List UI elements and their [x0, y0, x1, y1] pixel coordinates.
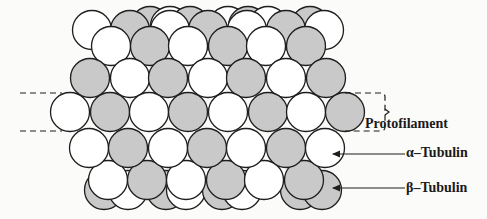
label-arrows — [333, 154, 405, 188]
alpha-tubulin-subunit — [306, 129, 345, 168]
beta-tubulin-subunit — [71, 59, 110, 98]
alpha-tubulin-subunit — [227, 129, 266, 168]
alpha-tubulin-subunit — [287, 93, 326, 132]
alpha-tubulin-label: α–Tubulin — [406, 145, 468, 161]
alpha-tubulin-subunit — [70, 129, 109, 168]
beta-tubulin-subunit — [267, 129, 306, 168]
alpha-tubulin-subunit — [189, 59, 228, 98]
beta-tubulin-subunit — [326, 93, 365, 132]
alpha-tubulin-subunit — [267, 59, 306, 98]
beta-tubulin-subunit — [227, 59, 266, 98]
beta-tubulin-subunit — [307, 59, 346, 98]
beta-tubulin-subunit — [109, 129, 148, 168]
alpha-tubulin-subunit — [111, 59, 150, 98]
alpha-tubulin-subunit — [51, 93, 90, 132]
alpha-tubulin-subunit — [130, 93, 169, 132]
tubulin-lattice — [51, 7, 365, 210]
beta-tubulin-subunit — [169, 93, 208, 132]
alpha-tubulin-subunit — [209, 93, 248, 132]
beta-tubulin-subunit — [91, 93, 130, 132]
beta-tubulin-label: β–Tubulin — [406, 180, 467, 196]
beta-tubulin-subunit — [249, 93, 288, 132]
beta-tubulin-subunit — [188, 129, 227, 168]
beta-tubulin-subunit — [149, 59, 188, 98]
alpha-tubulin-subunit — [149, 129, 188, 168]
protofilament-label: Protofilament — [365, 116, 448, 132]
